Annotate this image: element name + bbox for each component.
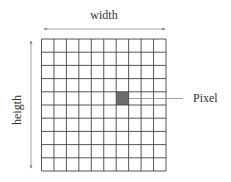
width-label: width — [90, 8, 117, 22]
pixel-label: Pixel — [193, 91, 218, 105]
height-label: heigth — [10, 95, 24, 125]
pixel-highlight — [116, 92, 128, 105]
pixel-grid-diagram: width heigth Pixel — [0, 0, 231, 182]
pixel-grid — [42, 39, 167, 171]
